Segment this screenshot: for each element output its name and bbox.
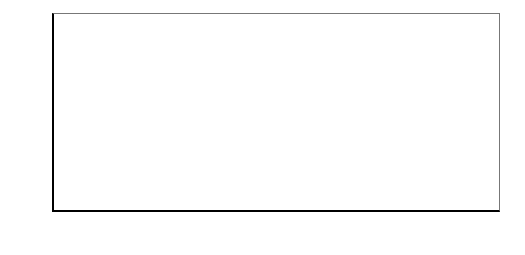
chart-figure xyxy=(0,0,525,255)
x-axis-tick-labels xyxy=(52,216,500,232)
plot-canvas xyxy=(54,14,499,210)
y-axis-tick-labels xyxy=(30,13,46,212)
plot-area xyxy=(52,13,500,212)
projection-band xyxy=(54,14,499,210)
